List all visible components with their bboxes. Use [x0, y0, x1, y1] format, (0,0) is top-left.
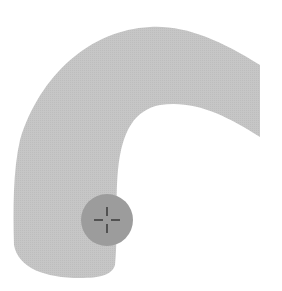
handle-circle[interactable]: [81, 194, 133, 246]
curved-band-shape[interactable]: [14, 27, 260, 278]
canvas: [0, 0, 282, 291]
drag-handle[interactable]: [81, 194, 133, 246]
